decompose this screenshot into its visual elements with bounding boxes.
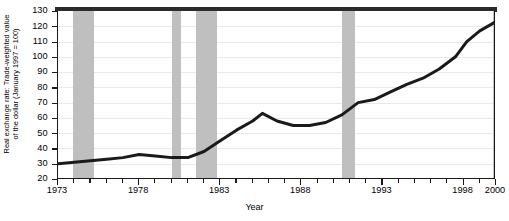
x-axis-tick [446, 179, 447, 183]
x-axis-tick [349, 179, 350, 183]
x-axis-tick [463, 179, 464, 185]
x-axis-tick [268, 179, 269, 183]
x-axis-tick-label: 1993 [361, 186, 401, 195]
x-axis-tick [138, 179, 139, 185]
y-axis-tick-label: 60 [8, 113, 48, 122]
x-axis-title: Year [0, 202, 509, 212]
y-axis-tick-label: 20 [8, 174, 48, 183]
x-axis-tick [106, 179, 107, 183]
x-axis-tick [317, 179, 318, 183]
y-axis-tick [52, 57, 58, 58]
x-axis-tick-label: 1988 [280, 186, 320, 195]
x-axis-tick-label: 1973 [37, 186, 77, 195]
x-axis-tick [73, 179, 74, 183]
y-axis-tick-label: 110 [8, 37, 48, 46]
y-axis-tick [52, 133, 58, 134]
y-axis-tick-label: 120 [8, 22, 48, 31]
y-axis-tick [52, 11, 58, 12]
y-axis-tick [52, 42, 58, 43]
x-axis-tick [398, 179, 399, 183]
x-axis-tick [300, 179, 301, 185]
y-axis-tick-label: 80 [8, 83, 48, 92]
y-axis-tick [52, 148, 58, 149]
x-axis-tick [203, 179, 204, 183]
x-axis-tick [414, 179, 415, 183]
plot-area [57, 11, 495, 179]
x-axis-tick [252, 179, 253, 183]
y-axis-tick-label: 100 [8, 52, 48, 61]
x-axis-tick [57, 179, 58, 185]
x-axis-tick [171, 179, 172, 183]
y-axis-tick-label: 30 [8, 159, 48, 168]
x-axis-tick [479, 179, 480, 183]
x-axis-tick [284, 179, 285, 183]
y-axis-tick [52, 103, 58, 104]
x-axis-tick [122, 179, 123, 183]
y-axis-tick-label: 40 [8, 144, 48, 153]
x-axis-tick-label: 1978 [118, 186, 158, 195]
y-axis-tick-label: 90 [8, 67, 48, 76]
x-axis-tick [495, 179, 496, 185]
x-axis-tick [365, 179, 366, 183]
x-axis-tick [89, 179, 90, 183]
x-axis-tick [154, 179, 155, 183]
y-axis-tick-label: 70 [8, 98, 48, 107]
y-axis-tick [52, 72, 58, 73]
x-axis-tick [430, 179, 431, 183]
y-axis-tick [52, 164, 58, 165]
y-axis-tick-label: 130 [8, 6, 48, 15]
chart-figure: Real exchange rate: Trade-weighted value… [0, 0, 509, 221]
y-axis-tick [52, 118, 58, 119]
x-axis-tick-label: 2000 [475, 186, 509, 195]
x-axis-tick [381, 179, 382, 185]
data-line [58, 11, 495, 179]
x-axis-tick [235, 179, 236, 183]
y-axis-tick [52, 26, 58, 27]
x-axis-tick [333, 179, 334, 183]
x-axis-tick [219, 179, 220, 185]
y-axis-tick [52, 87, 58, 88]
y-axis-tick-label: 50 [8, 129, 48, 138]
x-axis-tick [187, 179, 188, 183]
x-axis-tick-label: 1983 [199, 186, 239, 195]
